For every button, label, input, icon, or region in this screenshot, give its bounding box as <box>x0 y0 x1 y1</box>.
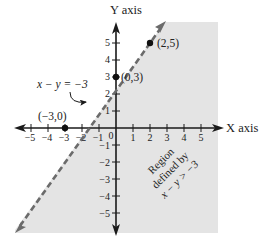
point-0-3 <box>113 74 119 80</box>
x-tick-label: −2 <box>76 132 87 143</box>
point-label-2-5: (2,5) <box>157 37 179 50</box>
y-tick-label: 5 <box>105 37 110 48</box>
y-tick-label: −5 <box>99 208 110 219</box>
x-tick-label: 1 <box>131 132 136 143</box>
y-tick-label: −4 <box>99 191 110 202</box>
x-tick-label: −4 <box>42 132 53 143</box>
y-tick-label: 3 <box>105 71 110 82</box>
x-tick-label: 3 <box>165 132 170 143</box>
y-tick-label: −2 <box>99 157 110 168</box>
point-label-neg3-0: (−3,0) <box>38 110 67 123</box>
x-axis-title: X axis <box>226 121 258 135</box>
point-label-0-3: (0,3) <box>121 71 143 84</box>
x-tick-label: −3 <box>59 132 70 143</box>
inequality-graph: −5 −4 −3 −2 −1 0 1 2 3 4 5 X axis <box>0 0 259 247</box>
x-tick-label: 4 <box>182 132 187 143</box>
equation-label: x − y = −3 <box>36 78 88 91</box>
x-tick-label: 5 <box>199 132 204 143</box>
y-tick-label: 4 <box>105 54 110 65</box>
point-neg3-0 <box>62 125 68 131</box>
x-tick-label: 2 <box>148 132 153 143</box>
y-tick-label: −3 <box>99 174 110 185</box>
y-tick-label: −1 <box>99 140 110 151</box>
y-axis-title: Y axis <box>110 3 142 17</box>
point-2-5 <box>147 40 153 46</box>
y-tick-label: 2 <box>105 88 110 99</box>
x-tick-label: −5 <box>25 132 36 143</box>
equation-pointer-arrow-icon <box>70 92 86 102</box>
